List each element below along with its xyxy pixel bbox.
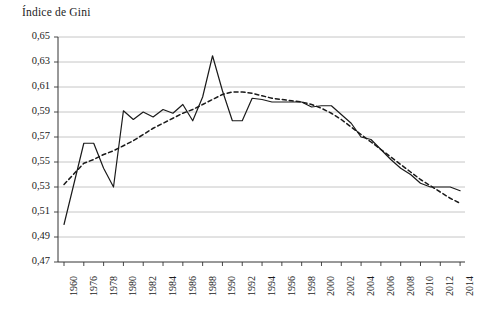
data-series [64,56,460,225]
y-axis-ticks [54,37,58,262]
gini-line-series [64,56,460,225]
gridlines [58,37,465,262]
trend-line-series [64,92,460,203]
plot-area [0,0,489,309]
x-axis-ticks [64,262,460,266]
gini-index-chart: Índice de Gini 0,650,630,610,590,570,550… [0,0,489,309]
